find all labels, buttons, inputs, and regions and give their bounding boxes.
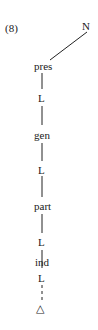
tree-edges (0, 0, 98, 330)
tree-node-l: L (38, 272, 45, 284)
tree-node-l: L (38, 92, 45, 104)
tree-node-l: L (38, 236, 45, 248)
tree-node-gen: gen (34, 129, 50, 141)
tree-node-part: part (34, 200, 51, 212)
tree-node-l: L (38, 164, 45, 176)
example-number: (8) (5, 22, 18, 34)
tree-node-ind: ind (35, 256, 49, 268)
tree-node-pres: pres (34, 60, 52, 72)
tree-root-node: N (82, 20, 90, 32)
triangle-terminal-icon: △ (36, 302, 44, 314)
